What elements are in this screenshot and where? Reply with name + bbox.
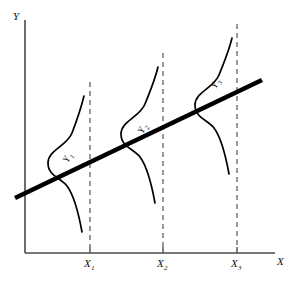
regression-figure: Y X X 1 X 2 X 3 Y 1 Y 2 Y 3: [0, 0, 293, 281]
tick-label-x2: X 2: [156, 257, 168, 272]
distribution-curve-x3: [195, 38, 232, 174]
tick-label-x3: X 3: [230, 257, 242, 272]
y-axis-label: Y: [13, 10, 21, 22]
mean-label-y1: Y 1: [61, 151, 76, 165]
figure-canvas: Y X X 1 X 2 X 3 Y 1 Y 2 Y 3: [0, 0, 293, 281]
distribution-curve-x1: [48, 96, 84, 232]
distribution-curve-x2: [121, 67, 158, 203]
tick-label-x2-sub: 2: [164, 264, 168, 272]
x-axis-label: X: [276, 255, 285, 267]
tick-label-x1: X 1: [83, 257, 95, 272]
tick-label-x3-sub: 3: [237, 264, 242, 272]
regression-line: [15, 80, 262, 198]
tick-label-x1-sub: 1: [91, 264, 95, 272]
